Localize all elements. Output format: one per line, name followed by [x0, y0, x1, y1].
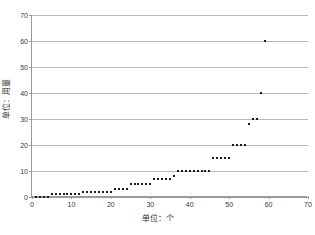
y-tick-label-50: 50	[20, 64, 28, 71]
data-point	[232, 144, 234, 146]
y-tick-label-60: 60	[20, 38, 28, 45]
gridline-y-60	[32, 41, 308, 42]
y-tick-mark-30	[29, 119, 32, 120]
data-point	[228, 157, 230, 159]
data-point	[201, 170, 203, 172]
data-point	[59, 193, 61, 195]
data-point	[153, 178, 155, 180]
x-tick-mark-60	[269, 196, 270, 199]
x-tick-label-70: 70	[304, 201, 312, 208]
y-tick-mark-20	[29, 145, 32, 146]
y-tick-label-20: 20	[20, 142, 28, 149]
data-point	[236, 144, 238, 146]
x-tick-mark-0	[32, 196, 33, 199]
data-point	[216, 157, 218, 159]
x-tick-label-30: 30	[146, 201, 154, 208]
data-point	[177, 170, 179, 172]
data-point	[157, 178, 159, 180]
data-point	[122, 188, 124, 190]
data-point	[66, 193, 68, 195]
gridline-y-10	[32, 171, 308, 172]
y-axis-title-container: 单位：用量	[0, 0, 14, 197]
data-point	[98, 191, 100, 193]
x-tick-mark-20	[111, 196, 112, 199]
scatter-chart: 单位：用量 010203040506070010203040506070 单位：…	[0, 0, 315, 235]
data-point	[43, 196, 45, 198]
x-tick-label-50: 50	[225, 201, 233, 208]
data-point	[220, 157, 222, 159]
data-point	[141, 183, 143, 185]
x-tick-mark-50	[229, 196, 230, 199]
gridline-y-50	[32, 67, 308, 68]
y-tick-mark-60	[29, 41, 32, 42]
data-point	[130, 183, 132, 185]
x-axis-title: 单位：个	[0, 214, 315, 224]
plot-area: 010203040506070010203040506070	[31, 15, 307, 197]
data-point	[102, 191, 104, 193]
y-tick-label-10: 10	[20, 168, 28, 175]
data-point	[260, 92, 262, 94]
y-tick-mark-70	[29, 15, 32, 16]
x-tick-mark-70	[308, 196, 309, 199]
data-point	[137, 183, 139, 185]
data-point	[149, 183, 151, 185]
y-tick-label-0: 0	[24, 194, 28, 201]
data-point	[161, 178, 163, 180]
data-point	[252, 118, 254, 120]
data-point	[82, 191, 84, 193]
x-tick-label-0: 0	[30, 201, 34, 208]
data-point	[114, 188, 116, 190]
data-point	[248, 123, 250, 125]
data-point	[35, 196, 37, 198]
data-point	[106, 191, 108, 193]
gridline-y-30	[32, 119, 308, 120]
gridline-y-0	[32, 197, 308, 198]
y-tick-label-30: 30	[20, 116, 28, 123]
data-point	[110, 191, 112, 193]
data-point	[118, 188, 120, 190]
data-point	[181, 170, 183, 172]
x-tick-mark-10	[71, 196, 72, 199]
x-tick-mark-30	[150, 196, 151, 199]
data-point	[126, 188, 128, 190]
y-tick-label-40: 40	[20, 90, 28, 97]
data-point	[169, 178, 171, 180]
gridline-y-20	[32, 145, 308, 146]
data-point	[86, 191, 88, 193]
y-tick-mark-40	[29, 93, 32, 94]
data-point	[240, 144, 242, 146]
data-point	[74, 193, 76, 195]
data-point	[94, 191, 96, 193]
data-point	[256, 118, 258, 120]
data-point	[208, 170, 210, 172]
data-point	[264, 40, 266, 42]
data-point	[63, 193, 65, 195]
data-point	[212, 157, 214, 159]
data-point	[90, 191, 92, 193]
x-tick-label-10: 10	[68, 201, 76, 208]
x-tick-mark-40	[190, 196, 191, 199]
data-point	[70, 193, 72, 195]
data-point	[173, 175, 175, 177]
data-point	[39, 196, 41, 198]
y-tick-label-70: 70	[20, 12, 28, 19]
data-point	[204, 170, 206, 172]
data-point	[78, 193, 80, 195]
data-point	[193, 170, 195, 172]
data-point	[197, 170, 199, 172]
x-tick-label-60: 60	[265, 201, 273, 208]
x-tick-label-40: 40	[186, 201, 194, 208]
data-point	[134, 183, 136, 185]
data-point	[224, 157, 226, 159]
gridline-y-70	[32, 15, 308, 16]
data-point	[189, 170, 191, 172]
y-tick-mark-10	[29, 171, 32, 172]
data-point	[185, 170, 187, 172]
data-point	[51, 193, 53, 195]
y-axis-title: 单位：用量	[2, 79, 12, 119]
y-tick-mark-50	[29, 67, 32, 68]
data-point	[165, 178, 167, 180]
x-tick-label-20: 20	[107, 201, 115, 208]
data-point	[55, 193, 57, 195]
gridline-y-40	[32, 93, 308, 94]
